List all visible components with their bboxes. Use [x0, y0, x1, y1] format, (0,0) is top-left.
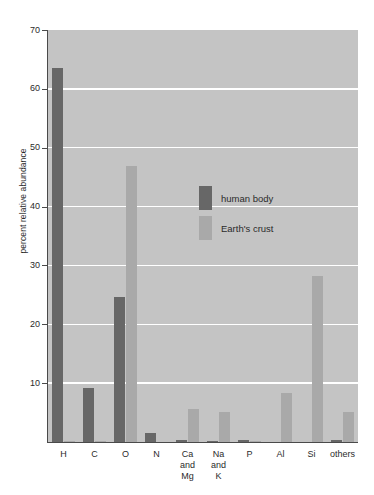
- y-tick-label: 30: [14, 261, 40, 270]
- x-tick-label-line: others: [318, 449, 368, 460]
- gridline: [48, 265, 358, 267]
- x-tick-label-line: K: [194, 471, 244, 482]
- y-tick-label: 20: [14, 320, 40, 329]
- bar-n-human-body: [145, 433, 156, 442]
- bar-si-earths-crust: [312, 276, 323, 442]
- x-tick-label-line: and: [194, 460, 244, 471]
- y-tick-label: 40: [14, 202, 40, 211]
- bar-chart: percent relative abundance 1020304050607…: [0, 0, 374, 495]
- bar-al-earths-crust: [281, 393, 292, 442]
- y-tick-label: 10: [14, 379, 40, 388]
- y-axis-line: [47, 30, 48, 442]
- bar-na-and-k-earths-crust: [219, 412, 230, 442]
- bar-h-human-body: [52, 68, 63, 442]
- gridline: [48, 88, 358, 90]
- legend-label-human-body: human body: [221, 193, 273, 204]
- x-axis-line: [47, 442, 358, 443]
- bar-ca-and-mg-earths-crust: [188, 409, 199, 442]
- legend-label-earths-crust: Earth's crust: [221, 223, 274, 234]
- legend-swatch-human-body: [199, 186, 212, 210]
- bar-o-human-body: [114, 297, 125, 442]
- gridline: [48, 147, 358, 149]
- x-tick-label: others: [318, 449, 368, 460]
- y-tick-label: 60: [14, 84, 40, 93]
- y-tick-label: 50: [14, 143, 40, 152]
- legend-swatch-earths-crust: [199, 216, 212, 240]
- bar-others-earths-crust: [343, 412, 354, 442]
- y-tick-label: 70: [14, 26, 40, 35]
- bar-c-human-body: [83, 388, 94, 442]
- bar-o-earths-crust: [126, 166, 137, 442]
